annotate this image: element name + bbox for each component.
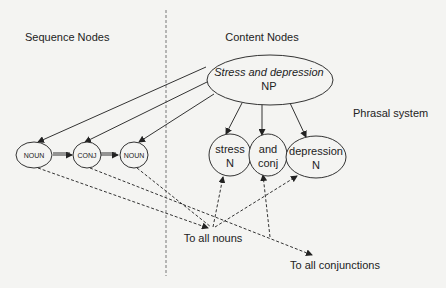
sequence-to-target-arrows: [38, 168, 312, 255]
to-all-conjunctions-label: To all conjunctions: [290, 259, 380, 271]
content-node-stress: stress N: [209, 134, 251, 176]
svg-text:and: and: [259, 143, 277, 155]
diagram-canvas: Stress and depression NP NOUN CONJ NOUN …: [0, 0, 446, 288]
content-node-and: and conj: [249, 134, 287, 176]
svg-text:CONJ: CONJ: [77, 152, 96, 159]
sequence-nodes-label: Sequence Nodes: [25, 31, 110, 43]
svg-text:N: N: [226, 157, 234, 169]
phrase-node-np: Stress and depression NP: [207, 55, 333, 105]
svg-text:depression: depression: [289, 145, 343, 157]
target-to-content-arrows: [213, 175, 297, 237]
diagram-svg: Stress and depression NP NOUN CONJ NOUN …: [0, 0, 446, 288]
svg-text:conj: conj: [258, 157, 278, 169]
phrase-node-category: NP: [261, 80, 276, 92]
content-node-depression: depression N: [286, 136, 346, 178]
to-all-nouns-label: To all nouns: [184, 232, 243, 244]
np-to-sequence-arrows: [38, 67, 214, 142]
svg-text:NOUN: NOUN: [24, 152, 45, 159]
phrasal-system-label: Phrasal system: [353, 107, 428, 119]
svg-text:NOUN: NOUN: [124, 152, 145, 159]
sequence-node-conj: CONJ: [73, 142, 101, 168]
svg-text:N: N: [312, 159, 320, 171]
sequence-node-noun-2: NOUN: [120, 142, 148, 168]
np-to-content-arrows: [226, 103, 306, 137]
sequence-node-noun-1: NOUN: [16, 142, 52, 168]
svg-text:stress: stress: [215, 143, 245, 155]
content-nodes-label: Content Nodes: [225, 31, 299, 43]
phrase-node-text: Stress and depression: [214, 66, 323, 78]
